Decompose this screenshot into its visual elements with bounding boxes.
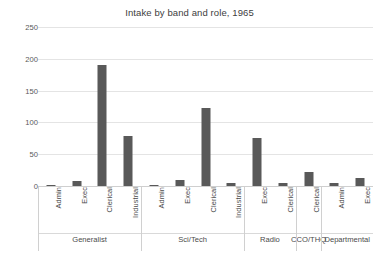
x-tick-label: Exec xyxy=(260,187,269,204)
x-tick-label: Clerical xyxy=(286,187,295,212)
x-tick-label: Industrial xyxy=(131,187,140,218)
x-tick-label: Exec xyxy=(363,187,372,204)
x-axis-category-labels: AdminExecClericalIndustrialAdminExecCler… xyxy=(38,187,373,233)
bar xyxy=(46,185,55,186)
x-tick-label: Clerical xyxy=(105,187,114,212)
x-tick-label: Admin xyxy=(54,187,63,208)
x-tick-label: Admin xyxy=(157,187,166,208)
bar xyxy=(175,180,184,186)
x-axis-group-label: Generalist xyxy=(72,235,107,244)
y-tick-label-50: 50 xyxy=(8,150,38,159)
chart-title: Intake by band and role, 1965 xyxy=(0,7,379,18)
y-tick-label-150: 150 xyxy=(8,86,38,95)
bar xyxy=(227,183,236,186)
x-tick-label: Clerical xyxy=(312,187,321,212)
x-axis-group-labels: GeneralistSci/TechRadioCCO/THQDepartment… xyxy=(38,233,373,253)
bar xyxy=(356,178,365,186)
bar xyxy=(304,172,313,186)
plot-area xyxy=(38,27,373,186)
bar xyxy=(330,183,339,186)
group-separator xyxy=(296,187,297,251)
group-separator xyxy=(141,187,142,251)
x-axis-group-label: Sci/Tech xyxy=(178,235,207,244)
bar-chart: Intake by band and role, 1965 0501001502… xyxy=(0,0,379,257)
x-axis-group-label: Departmental xyxy=(324,235,370,244)
bar xyxy=(124,136,133,186)
x-tick-label: Admin xyxy=(337,187,346,208)
bar xyxy=(72,181,81,186)
x-axis-group-label: Radio xyxy=(260,235,280,244)
bar xyxy=(98,65,107,186)
y-tick-label-200: 200 xyxy=(8,54,38,63)
bar xyxy=(253,138,262,186)
x-tick-label: Clerical xyxy=(209,187,218,212)
bar xyxy=(278,183,287,186)
bar xyxy=(201,108,210,186)
y-tick-label-250: 250 xyxy=(8,23,38,32)
group-separator xyxy=(321,187,322,251)
x-tick-label: Exec xyxy=(183,187,192,204)
bar xyxy=(149,185,158,186)
y-tick-label-100: 100 xyxy=(8,118,38,127)
group-separator xyxy=(38,187,39,251)
bars-layer xyxy=(38,27,373,186)
group-separator xyxy=(244,187,245,251)
y-tick-label-0: 0 xyxy=(8,182,38,191)
x-tick-label: Exec xyxy=(80,187,89,204)
x-tick-label: Industrial xyxy=(234,187,243,218)
